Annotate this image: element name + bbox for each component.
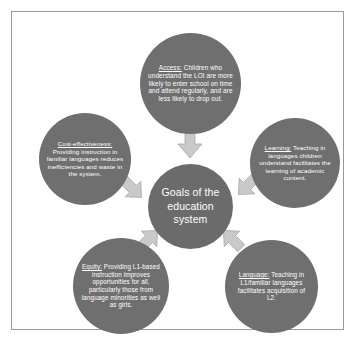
node-center-label: Goals of the education system [155,186,226,227]
node-access-keyword: Access: [159,64,182,71]
node-equity[interactable]: Equity: Providing L1-based instruction i… [73,238,169,334]
node-cost-effectiveness-keyword: Cost-effectiveness: [58,140,112,147]
diagram-frame: Access: Children who understand the LOI … [11,11,344,330]
node-learning-text: Learning: Teaching in languages children… [257,144,333,182]
node-access[interactable]: Access: Children who understand the LOI … [140,33,241,134]
node-cost-effectiveness[interactable]: Cost-effectiveness: Providing instructio… [39,113,131,205]
node-cost-effectiveness-body: Providing instruction in familiar langua… [47,148,124,178]
node-cost-effectiveness-text: Cost-effectiveness: Providing instructio… [46,140,123,178]
diagram-canvas: Access: Children who understand the LOI … [0,0,356,345]
node-language-text: Language: Teaching in L1/familiar langua… [232,271,310,302]
node-language[interactable]: Language: Teaching in L1/familiar langua… [225,240,318,333]
node-access-text: Access: Children who understand the LOI … [148,64,233,103]
node-equity-text: Equity: Providing L1-based instruction i… [81,263,162,309]
node-equity-body: Providing L1-based instruction improves … [82,263,160,308]
node-learning-keyword: Learning: [265,144,292,151]
node-language-keyword: Language: [239,271,270,278]
node-equity-keyword: Equity: [82,263,102,270]
node-center-goals[interactable]: Goals of the education system [148,164,233,249]
node-learning[interactable]: Learning: Teaching in languages children… [250,118,340,208]
